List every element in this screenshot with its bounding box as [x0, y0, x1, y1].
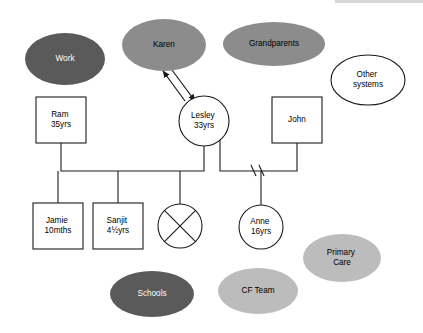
jamie-label-line-1: 10mths [45, 226, 72, 235]
lesley-label-line-1: 33yrs [194, 121, 214, 130]
node-deceased-child[interactable] [158, 204, 202, 248]
anne-label-line-0: Anne [250, 217, 270, 226]
primary-care-label-line-0: Primary [327, 248, 356, 257]
jamie-label: Jamie 10mths [45, 216, 72, 235]
sanjit-label-line-0: Sanjit [107, 216, 128, 225]
node-john[interactable]: John [272, 97, 322, 143]
john-label: John [288, 115, 306, 124]
node-schools[interactable]: Schools [110, 271, 194, 317]
other-systems-label-line-0: Other [357, 70, 378, 79]
scan-edge-artifact [335, 0, 423, 3]
node-sanjit[interactable]: Sanjit 4½yrs [93, 203, 143, 249]
other-systems-label-line-1: systems [353, 80, 383, 89]
other-systems-label: Other systems [353, 70, 383, 89]
karen-label-line-0: Karen [153, 40, 175, 49]
arrow-lesley-to-karen [163, 71, 185, 101]
ram-label-line-0: Ram [51, 110, 68, 119]
schools-label: Schools [137, 289, 166, 298]
sanjit-label-line-1: 4½yrs [107, 226, 129, 235]
lesley-label: Lesley 33yrs [191, 111, 217, 130]
karen-label: Karen [153, 40, 175, 49]
node-lesley[interactable]: Lesley 33yrs [179, 96, 229, 146]
grandparents-label: Grandparents [249, 39, 299, 48]
node-karen[interactable]: Karen [122, 19, 206, 71]
anne-label-line-1: 16yrs [251, 227, 271, 236]
anne-label: Anne 16yrs [250, 217, 271, 236]
cf-team-label: CF Team [241, 286, 274, 295]
lesley-label-line-0: Lesley [191, 111, 216, 120]
work-label-line-0: Work [56, 54, 76, 63]
grandparents-label-line-0: Grandparents [249, 39, 299, 48]
genogram-svg: Work Karen Grandparents Other systems [0, 0, 423, 333]
node-anne[interactable]: Anne 16yrs [239, 205, 283, 249]
genogram-canvas: Work Karen Grandparents Other systems [0, 0, 423, 333]
node-grandparents[interactable]: Grandparents [223, 22, 325, 66]
sanjit-label: Sanjit 4½yrs [107, 216, 130, 235]
arrow-karen-to-lesley [172, 70, 195, 101]
schools-label-line-0: Schools [137, 289, 166, 298]
jamie-label-line-0: Jamie [46, 216, 68, 225]
ram-label-line-1: 35yrs [51, 120, 71, 129]
node-primary-care[interactable]: Primary Care [303, 234, 381, 282]
cf-team-label-line-0: CF Team [241, 286, 274, 295]
karen-lesley-arrows [163, 70, 195, 101]
connector-lesley-john-union [220, 139, 297, 171]
john-label-line-0: John [288, 115, 306, 124]
node-cf-team[interactable]: CF Team [218, 268, 298, 314]
connector-lines [58, 139, 297, 205]
primary-care-label-line-1: Care [333, 258, 351, 267]
connector-ram-lesley-union [61, 143, 204, 171]
node-work[interactable]: Work [25, 33, 105, 85]
node-other-systems[interactable]: Other systems [331, 55, 405, 105]
ram-label: Ram 35yrs [51, 110, 71, 129]
work-label: Work [56, 54, 76, 63]
node-jamie[interactable]: Jamie 10mths [33, 203, 83, 249]
node-ram[interactable]: Ram 35yrs [36, 97, 86, 143]
